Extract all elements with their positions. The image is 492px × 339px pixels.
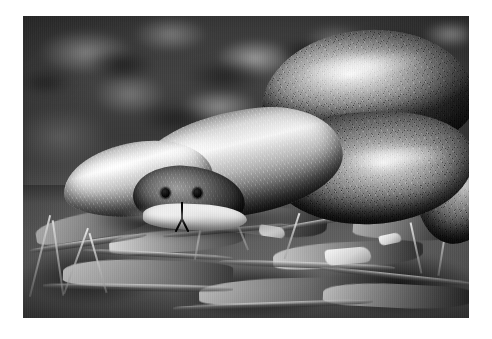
photo-page	[0, 0, 492, 339]
photograph	[23, 16, 469, 318]
